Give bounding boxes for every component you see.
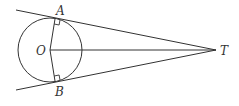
radius-OA <box>50 19 55 50</box>
label-A: A <box>55 4 65 18</box>
tangent-line-TA <box>16 10 216 50</box>
label-T: T <box>220 44 229 58</box>
tangent-diagram: A O B T <box>0 0 239 106</box>
diagram-svg: A O B T <box>0 0 239 106</box>
label-B: B <box>54 85 64 99</box>
radius-OB <box>50 50 55 81</box>
label-O: O <box>36 44 46 58</box>
tangent-line-TB <box>16 50 216 90</box>
